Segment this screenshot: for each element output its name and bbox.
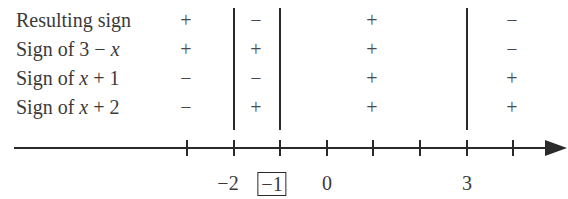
sign-r2-c0: − — [174, 67, 198, 89]
sign-r0-c3: − — [500, 9, 524, 31]
sign-r2-c3: + — [500, 67, 524, 89]
label-text: Sign of — [16, 67, 79, 89]
tick-minus-1 — [279, 140, 281, 156]
tick-3 — [466, 140, 468, 156]
row-label-x-plus-1: Sign of x + 1 — [16, 67, 120, 89]
sign-r3-c1: + — [244, 96, 268, 118]
sign-r0-c0: + — [174, 9, 198, 31]
label-text: + 1 — [88, 67, 119, 89]
label-text: Sign of 3 − — [16, 38, 111, 60]
sign-r1-c0: + — [174, 38, 198, 60]
sign-r3-c0: − — [174, 96, 198, 118]
sign-r1-c1: + — [244, 38, 268, 60]
tick-label-3: 3 — [462, 172, 472, 194]
label-text: + 2 — [88, 96, 119, 118]
sign-r1-c2: + — [360, 38, 384, 60]
divider-at-minus-1 — [279, 8, 281, 130]
sign-r3-c2: + — [360, 96, 384, 118]
label-var: x — [79, 67, 88, 89]
tick-4 — [512, 140, 514, 156]
arrow-right-icon — [545, 140, 567, 156]
tick-minus-2 — [233, 140, 235, 156]
number-line-axis — [14, 147, 548, 149]
tick-minus-3 — [186, 140, 188, 156]
tick-0 — [326, 140, 328, 156]
sign-r0-c2: + — [360, 9, 384, 31]
row-label-x-plus-2: Sign of x + 2 — [16, 96, 120, 118]
tick-label-minus-2: −2 — [217, 172, 238, 194]
sign-r2-c2: + — [360, 67, 384, 89]
tick-2 — [419, 140, 421, 156]
sign-r1-c3: − — [500, 38, 524, 60]
divider-at-3 — [466, 8, 468, 130]
tick-1 — [372, 140, 374, 156]
label-text: Resulting sign — [16, 9, 131, 31]
tick-label-minus-1-boxed: −1 — [257, 172, 286, 196]
row-label-3-minus-x: Sign of 3 − x — [16, 38, 120, 60]
label-var: x — [79, 96, 88, 118]
sign-r2-c1: − — [244, 67, 268, 89]
label-text: Sign of — [16, 96, 79, 118]
sign-r0-c1: − — [244, 9, 268, 31]
label-var: x — [111, 38, 120, 60]
row-label-resulting-sign: Resulting sign — [16, 9, 131, 31]
tick-label-0: 0 — [322, 172, 332, 194]
divider-at-minus-2 — [233, 8, 235, 130]
sign-r3-c3: + — [500, 96, 524, 118]
